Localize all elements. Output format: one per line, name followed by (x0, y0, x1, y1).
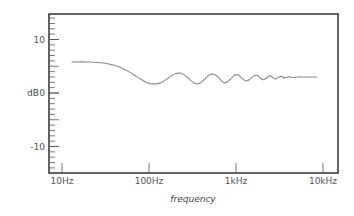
x-ticks: 10Hz100Hz1kHz10kHz (51, 163, 338, 186)
x-tick-label: 10Hz (51, 176, 74, 186)
y-tick-label: -10 (30, 142, 45, 152)
response-curve (72, 62, 317, 84)
x-axis-label: frequency (170, 194, 216, 204)
x-tick-label: 10kHz (309, 176, 337, 186)
y-tick-label: 0 (39, 88, 45, 98)
frequency-response-chart: 100-10 10Hz100Hz1kHz10kHz dB frequency (0, 0, 354, 216)
x-tick-label: 1kHz (225, 176, 248, 186)
y-axis-label: dB (27, 88, 39, 98)
plot-frame (49, 14, 338, 173)
y-tick-label: 10 (34, 35, 46, 45)
x-tick-label: 100Hz (135, 176, 164, 186)
